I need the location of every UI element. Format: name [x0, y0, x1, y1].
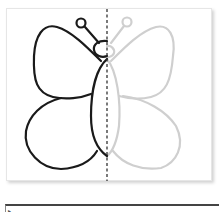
- answer-input-box[interactable]: ▸: [5, 204, 219, 212]
- butterfly-right-half: [105, 18, 180, 169]
- drawing-frame: [6, 8, 212, 181]
- text-cursor-icon: ▸: [8, 207, 11, 212]
- butterfly-drawing: [1, 1, 219, 212]
- butterfly-left-half: [26, 19, 107, 170]
